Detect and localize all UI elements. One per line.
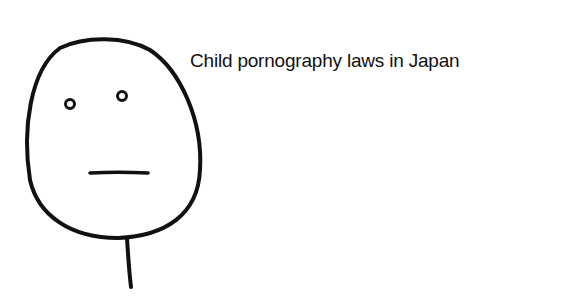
neck-line [127,238,131,287]
head-outline [27,39,200,238]
right-eye-icon [118,92,127,101]
mouth-line [90,172,148,173]
meme-caption: Child pornography laws in Japan [190,50,459,72]
poker-face-drawing [0,0,571,297]
meme-canvas: Child pornography laws in Japan [0,0,571,297]
left-eye-icon [66,100,75,109]
